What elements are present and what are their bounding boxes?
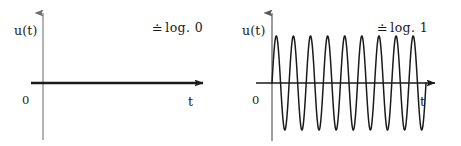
chart-panel-logical-0: u(t) t 0 ≐log. 0: [0, 0, 230, 146]
origin-label: 0: [252, 95, 259, 107]
annotation-logical-value: ≐log. 0: [152, 21, 203, 35]
annotation-text: log. 0: [165, 20, 203, 35]
annotation-logical-value: ≐log. 1: [377, 21, 428, 35]
corresponds-to-icon: ≐: [152, 21, 165, 36]
y-axis-label: u(t): [14, 25, 38, 38]
x-axis-label: t: [188, 96, 193, 109]
x-axis-label: t: [420, 96, 425, 109]
corresponds-to-icon: ≐: [377, 21, 390, 36]
y-axis-label: u(t): [242, 25, 266, 38]
annotation-text: log. 1: [390, 20, 428, 35]
chart-panel-logical-1: u(t) t 0 ≐log. 1: [230, 0, 461, 146]
origin-label: 0: [22, 95, 29, 107]
figure-root: u(t) t 0 ≐log. 0 u(t) t: [0, 0, 461, 146]
